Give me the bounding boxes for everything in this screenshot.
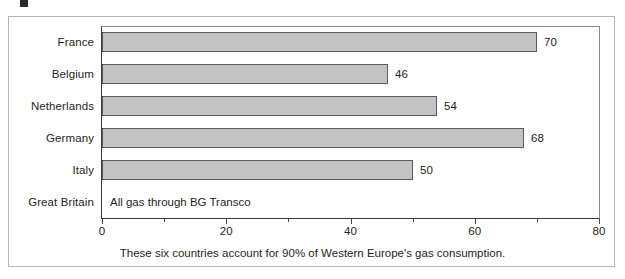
chart-row: Germany68	[0, 122, 625, 154]
category-label-france: France	[0, 36, 94, 48]
x-axis-major-tick	[102, 219, 103, 224]
page-corner-mark	[20, 0, 28, 7]
category-label-great-britain: Great Britain	[0, 196, 94, 208]
chart-row: Belgium46	[0, 58, 625, 90]
x-axis-major-tick	[351, 219, 352, 224]
bar-value-label: 68	[531, 132, 544, 144]
chart-row: France70	[0, 26, 625, 58]
row-annotation-text: All gas through BG Transco	[110, 196, 251, 208]
x-axis-minor-tick	[164, 219, 165, 222]
x-axis-tick-label: 20	[220, 225, 233, 237]
x-axis-tick-label: 0	[99, 225, 105, 237]
x-axis-major-tick	[475, 219, 476, 224]
bar-value-label: 70	[544, 36, 557, 48]
chart-caption: These six countries account for 90% of W…	[0, 247, 625, 259]
bar-belgium	[102, 64, 388, 84]
category-label-germany: Germany	[0, 132, 94, 144]
bar-italy	[102, 160, 413, 180]
chart-row: Great BritainAll gas through BG Transco	[0, 186, 625, 218]
x-axis-tick-label: 60	[468, 225, 481, 237]
x-axis-minor-tick	[537, 219, 538, 222]
chart-row: Netherlands54	[0, 90, 625, 122]
bar-germany	[102, 128, 524, 148]
bar-netherlands	[102, 96, 437, 116]
bar-chart-figure: France70Belgium46Netherlands54Germany68I…	[0, 0, 625, 279]
x-axis-major-tick	[599, 219, 600, 224]
x-axis-major-tick	[226, 219, 227, 224]
bar-value-label: 54	[444, 100, 457, 112]
x-axis-tick-label: 80	[593, 225, 606, 237]
x-axis-tick-label: 40	[344, 225, 357, 237]
x-axis-minor-tick	[288, 219, 289, 222]
bar-france	[102, 32, 537, 52]
chart-row: Italy50	[0, 154, 625, 186]
bar-rows: France70Belgium46Netherlands54Germany68I…	[0, 26, 625, 219]
bar-value-label: 46	[395, 68, 408, 80]
category-label-netherlands: Netherlands	[0, 100, 94, 112]
category-label-italy: Italy	[0, 164, 94, 176]
x-axis-minor-tick	[413, 219, 414, 222]
bar-value-label: 50	[420, 164, 433, 176]
category-label-belgium: Belgium	[0, 68, 94, 80]
